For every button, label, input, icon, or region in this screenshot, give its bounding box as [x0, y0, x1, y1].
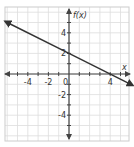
x-tick-label: -4 — [24, 78, 32, 87]
x-tick-label: 4 — [108, 78, 113, 87]
y-tick-label: -4 — [58, 111, 66, 120]
y-tick-label: 4 — [61, 29, 66, 38]
y-axis-label: f(x) — [73, 11, 87, 20]
function-graph: -4-20442-2-4 x f(x) — [0, 0, 134, 147]
x-axis-label: x — [121, 63, 127, 72]
y-tick-label: -2 — [58, 91, 66, 100]
x-tick-label: 0 — [63, 78, 68, 87]
x-tick-label: -2 — [44, 78, 52, 87]
